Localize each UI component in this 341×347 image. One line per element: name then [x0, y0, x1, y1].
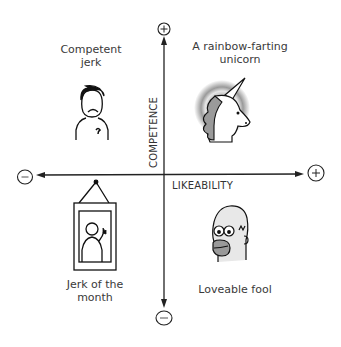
- arrow-down-icon: [161, 299, 167, 308]
- label-loveable-fool: Loveable fool: [190, 283, 280, 296]
- competence-axis-label: COMPETENCE: [148, 97, 159, 168]
- likeability-axis: [18, 165, 325, 184]
- arrow-left-icon: [36, 172, 45, 178]
- competence-plus-icon: [158, 23, 170, 35]
- likeability-plus-icon: [308, 165, 324, 181]
- unicorn-icon: [194, 78, 250, 142]
- framed-portrait-icon: [74, 180, 116, 270]
- label-rainbow-unicorn: A rainbow-farting unicorn: [185, 40, 295, 66]
- label-jerk-of-the-month: Jerk of the month: [50, 278, 140, 304]
- arrow-up-icon: [161, 36, 167, 45]
- label-competent-jerk: Competent jerk: [50, 43, 132, 69]
- likeability-minus-icon: [18, 170, 33, 184]
- frowning-man-icon: [76, 86, 108, 140]
- likeability-axis-label: LIKEABILITY: [172, 180, 233, 191]
- competence-minus-icon: [156, 311, 172, 325]
- arrow-right-icon: [295, 171, 304, 177]
- homer-face-icon: [213, 206, 248, 262]
